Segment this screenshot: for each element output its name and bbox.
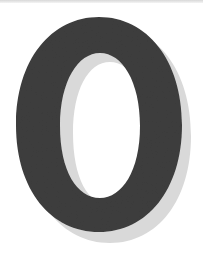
digit-zero-graphic bbox=[0, 0, 203, 255]
zero-glyph bbox=[16, 17, 182, 232]
